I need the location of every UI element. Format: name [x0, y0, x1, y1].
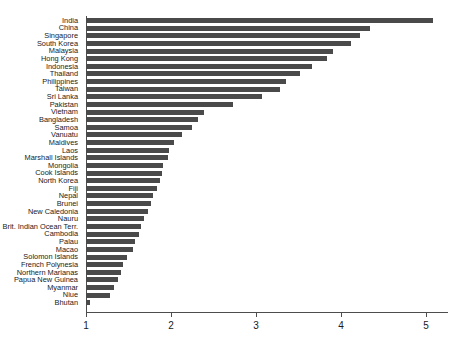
bar-row — [86, 155, 168, 160]
bar-row — [86, 209, 148, 214]
plot-area — [86, 18, 448, 312]
bar-row — [86, 224, 141, 229]
bar — [86, 277, 118, 282]
bar-row — [86, 71, 300, 76]
bar-row — [86, 18, 433, 23]
bar-row — [86, 247, 133, 252]
bar-row — [86, 285, 114, 290]
x-tick-mark — [256, 313, 257, 317]
bar-row — [86, 110, 204, 115]
bar-row — [86, 79, 286, 84]
bar — [86, 247, 133, 252]
bar — [86, 41, 351, 46]
bar — [86, 125, 192, 130]
x-tick-label: 4 — [338, 320, 344, 332]
bar-row — [86, 262, 123, 267]
bar — [86, 140, 174, 145]
bar-row — [86, 148, 169, 153]
bar — [86, 79, 286, 84]
bar — [86, 33, 360, 38]
bar — [86, 285, 114, 290]
bar-row — [86, 49, 333, 54]
x-tick-mark — [426, 313, 427, 317]
bar-row — [86, 201, 151, 206]
bar-row — [86, 216, 144, 221]
category-axis-labels: IndiaChinaSingaporeSouth KoreaMalaysiaHo… — [0, 18, 82, 312]
bar-row — [86, 33, 360, 38]
bar-row — [86, 125, 192, 130]
bar — [86, 178, 160, 183]
bar-row — [86, 140, 174, 145]
bar — [86, 64, 312, 69]
bar-row — [86, 94, 262, 99]
bar — [86, 94, 262, 99]
bar-row — [86, 232, 139, 237]
bar — [86, 270, 121, 275]
bar — [86, 293, 110, 298]
bar-row — [86, 87, 280, 92]
bar — [86, 300, 90, 305]
bar-row — [86, 186, 157, 191]
x-axis-line — [86, 312, 448, 313]
bar — [86, 110, 204, 115]
bar — [86, 26, 370, 31]
x-tick-mark — [341, 313, 342, 317]
x-tick-mark — [171, 313, 172, 317]
bar — [86, 232, 139, 237]
x-tick-mark — [86, 313, 87, 317]
bar — [86, 102, 233, 107]
bar-row — [86, 255, 127, 260]
bar — [86, 201, 151, 206]
bar — [86, 155, 168, 160]
bar-row — [86, 56, 327, 61]
category-label: Bhutan — [55, 299, 78, 307]
bar — [86, 132, 182, 137]
bar — [86, 163, 163, 168]
bar-row — [86, 239, 135, 244]
bar — [86, 117, 198, 122]
x-tick-label: 1 — [83, 320, 89, 332]
bar — [86, 224, 141, 229]
bar — [86, 49, 333, 54]
bar — [86, 193, 153, 198]
x-tick-label: 2 — [168, 320, 174, 332]
bar — [86, 239, 135, 244]
bar-row — [86, 64, 312, 69]
bar-row — [86, 193, 153, 198]
bar — [86, 18, 433, 23]
bar-row — [86, 41, 351, 46]
bar-row — [86, 270, 121, 275]
bar-row — [86, 26, 370, 31]
bar-row — [86, 277, 118, 282]
bar-row — [86, 117, 198, 122]
bar — [86, 56, 327, 61]
bar — [86, 255, 127, 260]
bar-chart: IndiaChinaSingaporeSouth KoreaMalaysiaHo… — [0, 0, 455, 346]
x-tick-label: 5 — [423, 320, 429, 332]
bar-row — [86, 178, 160, 183]
bar-row — [86, 102, 233, 107]
bar — [86, 148, 169, 153]
bar-row — [86, 293, 110, 298]
bar — [86, 186, 157, 191]
bar — [86, 216, 144, 221]
x-tick-label: 3 — [253, 320, 259, 332]
bar — [86, 171, 162, 176]
bar-row — [86, 163, 163, 168]
bar — [86, 262, 123, 267]
bar-row — [86, 300, 90, 305]
bar — [86, 209, 148, 214]
bar — [86, 87, 280, 92]
bar-row — [86, 132, 182, 137]
bar — [86, 71, 300, 76]
bar-row — [86, 171, 162, 176]
